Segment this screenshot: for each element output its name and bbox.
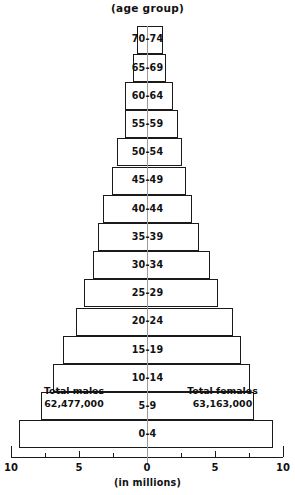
x-tick-5 — [215, 451, 216, 457]
center-axis-line — [147, 26, 148, 463]
total-males-annotation: Total males 62,477,000 — [24, 385, 124, 410]
x-tick-label-4: 10 — [268, 462, 295, 473]
x-tick--2.5 — [113, 453, 114, 457]
x-axis-caption: (in millions) — [0, 477, 295, 488]
x-tick--7.5 — [45, 453, 46, 457]
total-females-value: 63,163,000 — [170, 398, 275, 411]
total-females-label: Total females — [170, 385, 275, 398]
total-males-label: Total males — [24, 385, 124, 398]
total-males-value: 62,477,000 — [24, 398, 124, 411]
x-tick-label-2: 0 — [132, 462, 162, 473]
total-females-annotation: Total females 63,163,000 — [170, 385, 275, 410]
x-tick-10 — [283, 446, 284, 457]
population-pyramid-chart: (age group) 70-7465-6960-6455-5950-5445-… — [0, 0, 295, 495]
x-tick-label-0: 10 — [0, 462, 26, 473]
x-tick-label-3: 5 — [200, 462, 230, 473]
x-tick-label-1: 5 — [64, 462, 94, 473]
x-tick-2.5 — [181, 453, 182, 457]
x-tick-7.5 — [249, 453, 250, 457]
x-tick--10 — [11, 446, 12, 457]
x-tick--5 — [79, 451, 80, 457]
